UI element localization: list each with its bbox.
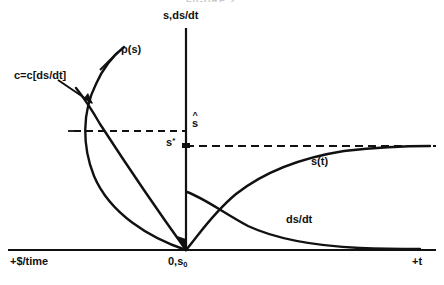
level-label-s-hat: ^ s [192, 118, 198, 129]
origin-label-subscript: 0 [183, 260, 187, 269]
origin-label-prefix: 0,s [168, 255, 183, 267]
level-label-s-star: s* [166, 137, 175, 148]
curve-p-of-s [85, 47, 186, 250]
s-star-superscript: * [172, 136, 175, 145]
diagram-canvas [0, 0, 444, 285]
horizontal-left-axis-label: +$/time [10, 256, 48, 267]
curve-label-marginal-cost: c=c[ds/dt] [14, 70, 66, 81]
leader-line-p-of-s [100, 52, 118, 70]
s-hat-accent: ^ [192, 111, 197, 120]
curve-label-s-of-t: s(t) [311, 156, 328, 167]
curve-s-of-t [186, 146, 430, 250]
vertical-axis-label: s,ds/dt [163, 10, 198, 21]
origin-label: 0,s0 [168, 256, 187, 267]
curve-label-p-of-s: p(s) [121, 44, 141, 55]
s-star-tick [182, 143, 190, 148]
figure-container: FIGURE 2 s,ds/dt p(s) c=c[d [0, 0, 444, 285]
horizontal-right-axis-label: +t [412, 256, 422, 267]
curve-label-ds-dt: ds/dt [286, 214, 312, 225]
